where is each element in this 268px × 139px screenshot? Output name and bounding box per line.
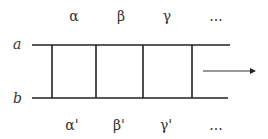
top-label-gamma: γ [163, 8, 171, 24]
top-label-ellipsis: ... [209, 8, 222, 24]
rail-label-a: a [13, 36, 21, 52]
bottom-label-beta-prime: β' [113, 117, 125, 133]
rail-label-b: b [13, 90, 22, 106]
bottom-label-alpha-prime: α' [65, 117, 78, 133]
bottom-label-gamma-prime: γ' [160, 117, 172, 133]
bottom-label-ellipsis: ... [209, 117, 222, 133]
top-label-alpha: α [69, 8, 79, 24]
top-label-beta: β [117, 8, 125, 24]
right-arrow-icon [203, 68, 256, 74]
ladder-diagram: a b α β γ ... α' β' γ' ... [0, 0, 268, 139]
